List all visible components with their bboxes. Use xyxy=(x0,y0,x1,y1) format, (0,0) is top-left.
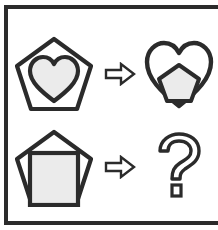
question-mark-dot xyxy=(172,185,181,196)
analogy-row-bottom xyxy=(8,124,218,210)
cell-pentagon-with-square xyxy=(8,124,100,210)
pentagon-with-heart-figure xyxy=(12,34,96,114)
arrow-outline xyxy=(106,157,134,177)
puzzle-canvas xyxy=(0,0,218,230)
implies-arrow-icon xyxy=(104,62,136,86)
operator-arrow-bottom xyxy=(100,124,140,210)
heart-with-pentagon-figure xyxy=(143,38,215,110)
pentagon-with-square-figure xyxy=(12,127,96,207)
cell-pentagon-with-heart xyxy=(8,31,100,117)
inner-square-shape xyxy=(30,153,78,205)
operator-arrow-top xyxy=(100,31,140,117)
question-mark-hook xyxy=(160,134,199,179)
cell-heart-with-pentagon xyxy=(140,31,218,117)
implies-arrow-icon xyxy=(104,155,136,179)
question-mark-icon xyxy=(151,131,207,203)
puzzle-frame xyxy=(4,5,218,225)
cell-unknown-answer xyxy=(140,124,218,210)
arrow-outline xyxy=(106,64,134,84)
analogy-row-top xyxy=(8,31,218,117)
